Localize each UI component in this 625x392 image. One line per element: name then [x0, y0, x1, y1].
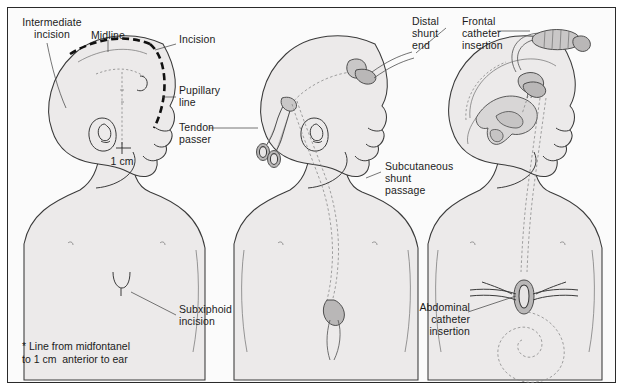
medical-illustration-figure: Intermediate incision Midline Incision P… — [0, 0, 625, 392]
label-subxiphoid-incision: Subxiphoid incision — [179, 303, 259, 327]
footnote-line-2: to 1 cm anterior to ear — [22, 353, 128, 366]
label-distal-shunt-end: Distal shunt end — [412, 15, 456, 52]
label-subcutaneous-shunt-passage: Subcutaneous shunt passage — [385, 160, 471, 197]
label-measurement-1cm: 1 cm — [105, 155, 139, 167]
label-tendon-passer: Tendon passer — [179, 121, 239, 145]
label-incision: Incision — [179, 33, 239, 45]
label-frontal-catheter-insertion: Frontal catheter insertion — [462, 15, 526, 52]
illustration-artwork — [0, 0, 625, 392]
panel-middle-art — [234, 36, 418, 380]
label-abdominal-catheter-insertion: Abdominal catheter insertion — [404, 301, 470, 338]
label-midline: Midline — [78, 29, 138, 41]
label-pupillary-line: Pupillary line — [179, 84, 241, 108]
panel-left-art — [24, 36, 205, 380]
footnote-line-1: * Line from midfontanel — [22, 340, 130, 353]
